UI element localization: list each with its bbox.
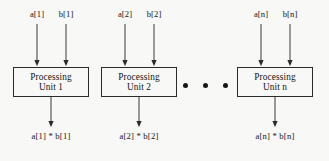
processing-unit-2-line1: Processing xyxy=(118,72,159,82)
input-label-a-unit-2: a[2] xyxy=(118,9,132,19)
input-label-b-unit-2: b[2] xyxy=(147,9,162,19)
ellipsis-dot-3 xyxy=(223,83,228,88)
input-label-a-unit-n: a[n] xyxy=(254,9,268,19)
output-label-unit-n: a[n] * b[n] xyxy=(256,131,295,141)
processing-unit-1-line2: Unit 1 xyxy=(39,82,63,92)
output-label-unit-2: a[2] * b[2] xyxy=(120,131,159,141)
continuation-ellipsis xyxy=(183,83,228,88)
output-label-unit-1: a[1] * b[1] xyxy=(32,131,71,141)
processing-unit-2-box[interactable]: Processing Unit 2 xyxy=(101,67,177,97)
processing-unit-1-line1: Processing xyxy=(30,72,71,82)
processing-unit-1-box[interactable]: Processing Unit 1 xyxy=(13,67,89,97)
ellipsis-dot-2 xyxy=(203,83,208,88)
processing-units-diagram: a[1] b[1] Processing Unit 1 a[1] * b[1] … xyxy=(0,0,329,161)
processing-unit-n-line1: Processing xyxy=(254,72,295,82)
processing-unit-2-line2: Unit 2 xyxy=(127,82,151,92)
processing-unit-n-line2: Unit n xyxy=(263,82,287,92)
ellipsis-dot-1 xyxy=(183,83,188,88)
input-label-a-unit-1: a[1] xyxy=(30,9,44,19)
input-label-b-unit-1: b[1] xyxy=(59,9,74,19)
processing-unit-n-box[interactable]: Processing Unit n xyxy=(237,67,313,97)
input-label-b-unit-n: b[n] xyxy=(283,9,298,19)
